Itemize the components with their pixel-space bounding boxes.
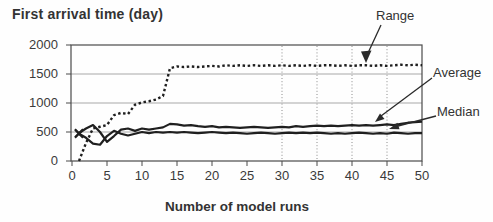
plot-area [0, 0, 493, 222]
range-arrowhead-icon [361, 51, 372, 64]
average-callout-line [381, 78, 432, 116]
chart-figure: First arrival time (day) 2000 1500 1000 … [0, 0, 493, 222]
series-median-line [79, 131, 422, 145]
median-callout-line [398, 116, 436, 126]
range-callout-line [368, 25, 381, 53]
series-range-line [79, 65, 422, 161]
